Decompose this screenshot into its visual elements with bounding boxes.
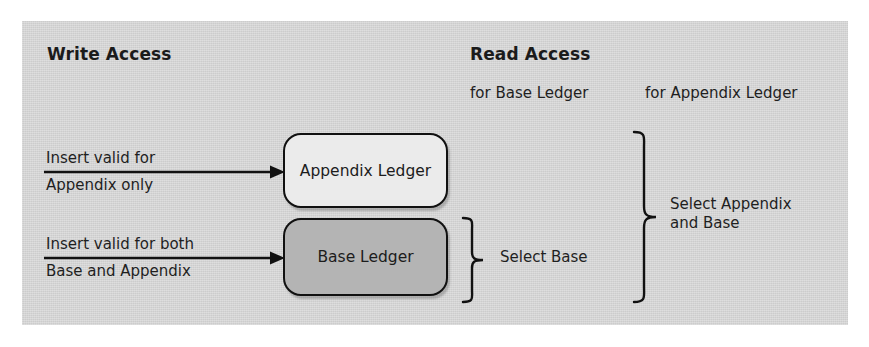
read-access-subheading-appendix: for Appendix Ledger <box>645 84 798 102</box>
write-access-heading: Write Access <box>47 44 172 64</box>
read-access-heading: Read Access <box>470 44 590 64</box>
read-access-subheading-base: for Base Ledger <box>470 84 588 102</box>
appendix-ledger-label: Appendix Ledger <box>300 162 431 180</box>
base-ledger-label: Base Ledger <box>317 248 413 266</box>
arrow-label-insert-base-and-appendix-top: Insert valid for both <box>46 237 194 252</box>
appendix-ledger-box: Appendix Ledger <box>283 133 448 208</box>
arrow-label-insert-base-and-appendix-bottom: Base and Appendix <box>46 264 191 279</box>
brace-base-icon <box>459 216 493 304</box>
arrow-label-insert-appendix-only-bottom: Appendix only <box>46 178 153 193</box>
brace-base-label: Select Base <box>500 248 588 267</box>
base-ledger-box: Base Ledger <box>283 218 448 296</box>
arrow-label-insert-appendix-only-top: Insert valid for <box>46 151 155 166</box>
brace-appendix-label: Select Appendix and Base <box>670 195 792 233</box>
brace-appendix-icon <box>629 130 669 306</box>
